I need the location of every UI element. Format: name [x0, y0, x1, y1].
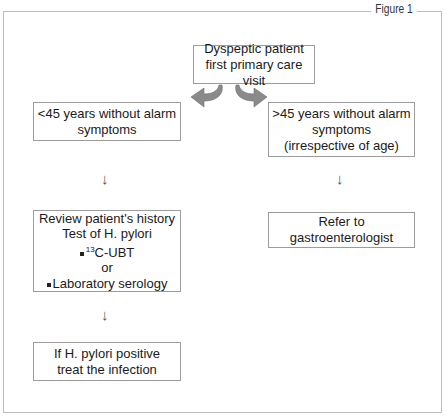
node-over-45: >45 years without alarm symptoms (irresp… — [268, 102, 415, 157]
review-or: or — [101, 260, 113, 276]
arrow-down-icon: ↓ — [101, 171, 109, 186]
node-review-test: Review patient's history Test of H. pylo… — [33, 210, 181, 292]
node-under-45: <45 years without alarm symptoms — [33, 102, 181, 141]
review-option1: 13C-UBT — [80, 242, 135, 261]
node-under-45-line2: symptoms — [77, 122, 136, 138]
node-treat-line1: If H. pylori positive — [54, 346, 160, 362]
review-option2: Laboratory serology — [47, 276, 168, 292]
bullet-icon — [47, 283, 51, 287]
arrow-down-icon: ↓ — [101, 307, 109, 322]
review-line2: Test of H. pylori — [62, 226, 152, 242]
node-treat: If H. pylori positive treat the infectio… — [33, 342, 181, 381]
curved-arrow-right-icon — [230, 83, 270, 113]
review-line1: Review patient's history — [39, 211, 175, 227]
node-start: Dyspeptic patient first primary care vis… — [193, 45, 315, 84]
isotope-superscript: 13 — [86, 245, 95, 254]
option1-text: C-UBT — [95, 245, 135, 260]
node-refer: Refer to gastroenterologist — [268, 212, 415, 248]
node-under-45-line1: <45 years without alarm — [38, 106, 176, 122]
node-over-45-line2: symptoms — [312, 122, 371, 138]
option2-text: Laboratory serology — [53, 276, 168, 291]
node-start-line1: Dyspeptic patient — [204, 41, 304, 57]
figure-label: Figure 1 — [371, 2, 417, 16]
node-treat-line2: treat the infection — [57, 362, 157, 378]
node-over-45-line1: >45 years without alarm — [272, 106, 410, 122]
node-refer-text: Refer to gastroenterologist — [269, 214, 414, 246]
curved-arrow-left-icon — [188, 83, 228, 113]
arrow-down-icon: ↓ — [336, 171, 344, 186]
bullet-icon — [80, 252, 84, 256]
node-over-45-line3: (irrespective of age) — [284, 138, 399, 154]
